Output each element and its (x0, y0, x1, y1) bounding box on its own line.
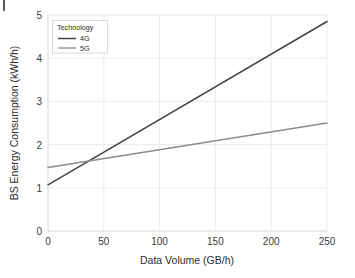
y-tick-label-3: 3 (36, 96, 42, 107)
x-tick-labels: 0 50 100 150 200 250 (45, 236, 336, 247)
x-tick-label-250: 250 (319, 236, 336, 247)
y-tick-label-1: 1 (36, 183, 42, 194)
x-tick-label-100: 100 (151, 236, 168, 247)
legend[interactable]: Technology 4G 5G (53, 21, 108, 54)
x-axis-title: Data Volume (GB/h) (140, 254, 234, 266)
y-tick-label-2: 2 (36, 140, 42, 151)
y-tick-label-4: 4 (36, 53, 42, 64)
x-tick-label-150: 150 (207, 236, 224, 247)
y-tick-label-5: 5 (36, 10, 42, 21)
y-tick-label-0: 0 (36, 226, 42, 237)
legend-label-5g[interactable]: 5G (80, 44, 90, 53)
y-axis-title: BS Energy Consumption (kWh/h) (8, 46, 20, 201)
chart-figure: 5 4 3 2 1 0 0 50 100 150 200 250 Data Vo… (0, 0, 355, 278)
line-chart-canvas: 5 4 3 2 1 0 0 50 100 150 200 250 Data Vo… (0, 0, 355, 278)
x-tick-label-200: 200 (263, 236, 280, 247)
legend-label-4g[interactable]: 4G (80, 34, 90, 43)
x-tick-label-0: 0 (45, 236, 51, 247)
y-tick-labels: 5 4 3 2 1 0 (36, 10, 42, 237)
legend-title: Technology (57, 23, 94, 32)
image-edge-artifact (3, 0, 5, 11)
x-tick-label-50: 50 (98, 236, 110, 247)
